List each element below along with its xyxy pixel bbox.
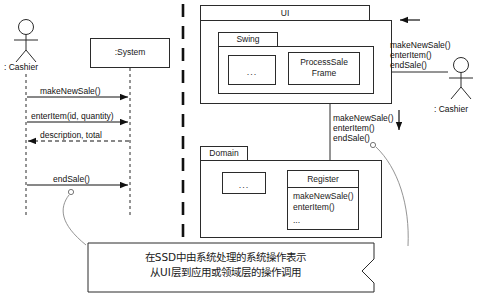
package-swing-label: Swing xyxy=(236,34,259,45)
domain-placeholder-box: ... xyxy=(222,172,266,194)
class-register-operations: makeNewSale() enterItem() xyxy=(288,188,358,215)
leader-anchor-left xyxy=(68,189,73,194)
package-tab-domain: Domain xyxy=(200,146,248,160)
class-register-name: Register xyxy=(288,171,358,188)
diagram-canvas: : Cashier :System makeNewSale() enterIte… xyxy=(0,0,501,301)
actor-cashier-left-label: : Cashier xyxy=(4,62,38,72)
actor-cashier-left-figure xyxy=(14,20,38,63)
callout-line-1: 在SSD中由系统处理的系统操作表示 xyxy=(88,250,363,264)
message-label-makenewsale: makeNewSale() xyxy=(40,86,100,96)
message-label-enteritem: enterItem(id, quantity) xyxy=(31,111,114,121)
message-label-endsale: endSale() xyxy=(53,174,90,184)
layer-messages-label: makeNewSale() enterItem() endSale() xyxy=(333,113,393,143)
message-label-description-total: description, total xyxy=(40,130,102,140)
package-ui-label: UI xyxy=(281,8,290,19)
processsale-frame-box: ProcessSale Frame xyxy=(288,52,360,85)
class-register: Register makeNewSale() enterItem() ... xyxy=(287,170,359,230)
package-domain-label: Domain xyxy=(209,148,238,159)
actor-cashier-right-label: : Cashier xyxy=(434,104,468,114)
package-tab-swing: Swing xyxy=(218,32,278,46)
actor-cashier-right-figure xyxy=(449,58,473,100)
actor-messages-label: makeNewSale() enterItem() endSale() xyxy=(390,40,450,70)
class-register-more: ... xyxy=(288,215,358,228)
system-lifeline-box: :System xyxy=(90,38,170,68)
leader-anchor-right xyxy=(370,142,375,147)
package-tab-ui: UI xyxy=(200,5,370,20)
leader-line-left xyxy=(63,195,86,245)
callout-line-2: 从UI层到应用或领域层的操作调用 xyxy=(88,265,363,279)
swing-placeholder-box: ... xyxy=(228,55,276,85)
